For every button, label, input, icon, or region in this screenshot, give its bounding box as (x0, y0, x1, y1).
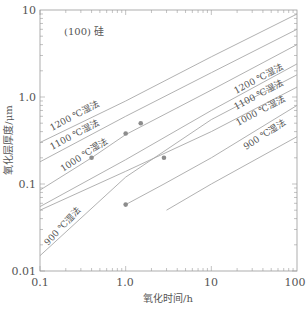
x-axis-title: 氧化时间/h (143, 292, 193, 304)
oxide-thickness-chart: 10 1.0 0.1 0.01 0.1 1.0 10 100 氧化时间/h 氧化… (0, 0, 308, 311)
material-annotation: (100) 硅 (64, 25, 104, 37)
data-markers (89, 121, 166, 207)
x-tick-label: 0.1 (31, 276, 49, 289)
x-tick-label: 10 (204, 276, 218, 289)
data-point-marker (123, 202, 128, 207)
y-axis-title: 氧化层厚度/μm (2, 105, 14, 175)
curve-line (126, 105, 297, 204)
x-tick-label: 1.0 (116, 276, 134, 289)
curve-label: 900 ℃湿法 (41, 205, 82, 248)
y-tick-label: 10 (22, 4, 36, 17)
data-point-marker (138, 121, 143, 126)
curve-line (167, 137, 298, 211)
data-point-marker (123, 131, 128, 136)
curve-line (40, 75, 297, 256)
data-point-marker (162, 156, 167, 161)
y-tick-label: 0.1 (19, 178, 37, 191)
x-tick-label: 100 (285, 276, 306, 289)
y-tick-label: 1.0 (19, 91, 37, 104)
